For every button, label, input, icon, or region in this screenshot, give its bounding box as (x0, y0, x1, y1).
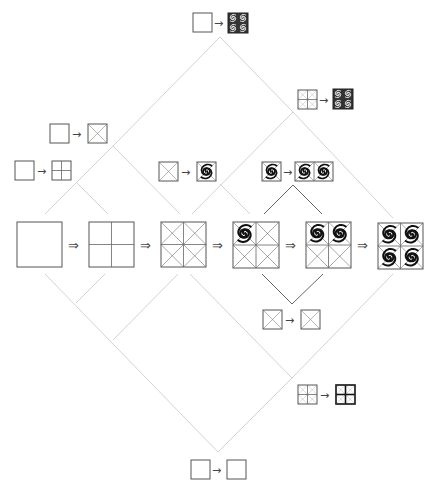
connector-left-inner (77, 183, 108, 214)
rule-upper-right: → (298, 89, 353, 109)
rule-mid-2: → (262, 162, 333, 181)
derivation-arrow: ⇒ (212, 238, 223, 253)
tile-quartered (89, 222, 134, 267)
rule-bottom: → (191, 460, 246, 479)
rule-arrow: → (283, 166, 292, 179)
derivation-arrow: ⇒ (357, 238, 368, 253)
tile-quartered-crossed (161, 222, 206, 267)
rule-arrow: → (212, 464, 221, 477)
derivation-diagram: ⇒ ⇒ ⇒ ⇒ (0, 0, 436, 491)
tile-four-spirals (378, 223, 423, 269)
derivation-arrow: ⇒ (68, 238, 79, 253)
rule-arrow: → (37, 165, 46, 178)
connector-top (113, 37, 293, 146)
rule-arrow: → (320, 389, 329, 402)
derivation-arrow: ⇒ (140, 238, 151, 253)
connector-bottom (45, 274, 292, 452)
rule-lower-2: → (298, 385, 355, 404)
rule-arrow: → (181, 166, 190, 179)
connector-low-left-1 (76, 274, 105, 303)
connector-small-v-top (264, 185, 322, 214)
main-sequence: ⇒ ⇒ ⇒ ⇒ (17, 222, 423, 269)
rule-arrow: → (319, 94, 328, 107)
connector-mid-branch (220, 184, 250, 214)
tile-two-spirals (306, 222, 351, 268)
rule-arrow: → (285, 314, 294, 327)
connector-low-left-2 (113, 274, 178, 340)
rule-arrow: → (214, 17, 223, 30)
connector-small-v-bottom (262, 274, 323, 304)
rule-mid-1: → (159, 162, 216, 181)
tile-empty (17, 222, 62, 267)
derivation-arrow: ⇒ (285, 238, 296, 253)
rule-top: → (193, 13, 248, 33)
rule-left-2: → (15, 161, 71, 180)
tile-one-spiral (233, 222, 279, 268)
rule-arrow: → (72, 128, 81, 141)
rule-lower-1: → (263, 310, 320, 329)
rule-left-1: → (50, 124, 107, 143)
